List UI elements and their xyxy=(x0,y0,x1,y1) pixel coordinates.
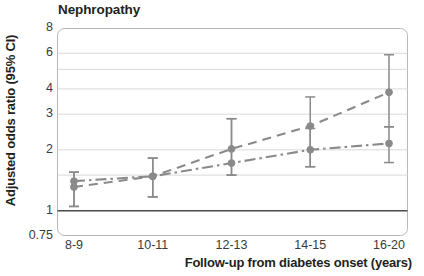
plot-area xyxy=(57,28,408,236)
y-tick-label: 1 xyxy=(14,203,53,217)
y-tick-label: 0.75 xyxy=(14,228,53,242)
y-tick-label: 3 xyxy=(14,106,53,120)
y-axis-tick-labels: 0.75123468 xyxy=(14,0,53,276)
x-tick-label: 8-9 xyxy=(65,238,83,252)
x-axis-tick-labels: 8-910-1112-1314-1516-20 xyxy=(57,238,408,256)
y-tick-label: 2 xyxy=(14,142,53,156)
data-point xyxy=(149,173,156,180)
data-point xyxy=(386,89,393,96)
data-point xyxy=(307,146,314,153)
page-title: Nephropathy xyxy=(58,2,140,17)
plot-frame xyxy=(58,29,408,236)
x-tick-label: 12-13 xyxy=(216,238,248,252)
x-tick-label: 10-11 xyxy=(137,238,168,252)
y-tick-label: 4 xyxy=(14,81,53,95)
y-tick-label: 6 xyxy=(14,45,53,59)
x-tick-label: 14-15 xyxy=(294,238,326,252)
chart-figure: Nephropathy Adjusted odds ratio (95% CI)… xyxy=(0,0,424,276)
data-point xyxy=(71,178,78,185)
y-tick-label: 8 xyxy=(14,20,53,34)
data-point xyxy=(228,160,235,167)
x-axis-title: Follow-up from diabetes onset (years) xyxy=(0,255,424,270)
x-tick-label: 16-20 xyxy=(373,238,405,252)
plot-canvas xyxy=(57,28,408,236)
data-point xyxy=(386,140,393,147)
